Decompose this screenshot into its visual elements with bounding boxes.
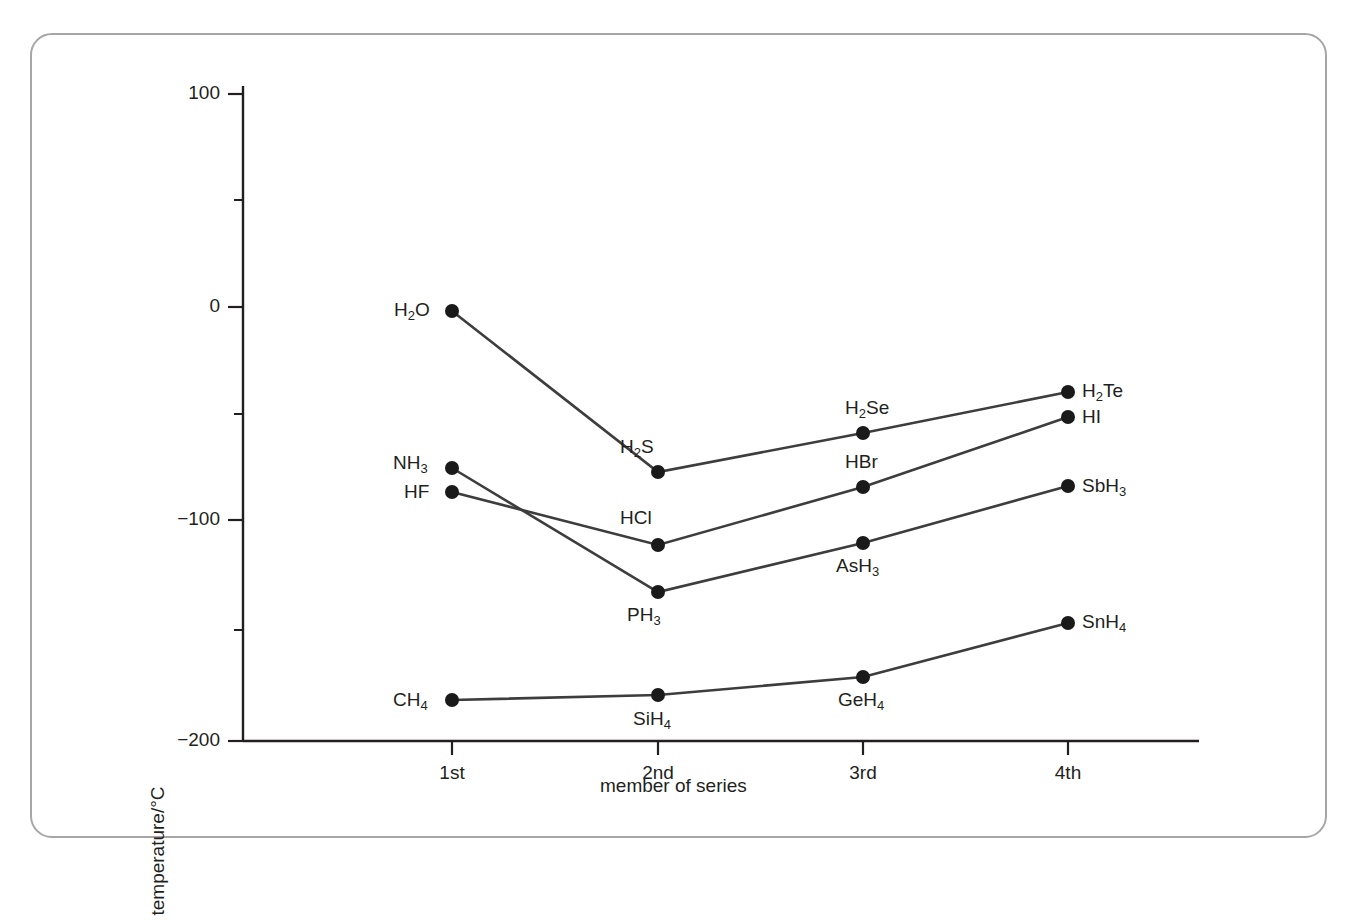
data-point-geh4[interactable] [856,670,870,684]
data-point-nh3[interactable] [445,461,459,475]
data-point-hbr[interactable] [856,480,870,494]
data-point-sbh3[interactable] [1061,479,1075,493]
data-point-ch4[interactable] [445,693,459,707]
point-label-h2se: H2Se [845,398,889,417]
point-label-sih4: SiH4 [633,709,671,728]
series-line-group14 [452,623,1068,700]
series-line-group15 [452,468,1068,592]
point-label-ph3: PH3 [627,605,661,624]
y-axis-title-wrapper: temperature/°C [95,400,325,424]
point-label-h2s: H2S [620,437,654,456]
data-point-hcl[interactable] [651,538,665,552]
x-tick-label-4th: 4th [1028,762,1108,784]
point-label-hcl: HCl [620,508,652,527]
x-axis-title: member of series [600,775,747,797]
data-point-ph3[interactable] [651,585,665,599]
data-point-h2s[interactable] [651,465,665,479]
y-tick-label-100: 100 [150,82,220,104]
point-label-snh4: SnH4 [1082,612,1126,631]
data-point-h2te[interactable] [1061,385,1075,399]
data-point-sih4[interactable] [651,688,665,702]
point-label-ash3: AsH3 [836,556,879,575]
x-tick-label-1st: 1st [412,762,492,784]
point-label-ch4: CH4 [393,690,428,709]
point-label-nh3: NH3 [393,453,428,472]
y-axis-title: temperature/°C [147,736,169,920]
data-point-h2se[interactable] [856,426,870,440]
point-label-h2te: H2Te [1082,381,1123,400]
point-label-sbh3: SbH3 [1082,476,1126,495]
y-tick-label-0: 0 [150,295,220,317]
point-label-hi: HI [1082,407,1101,426]
y-tick-label-minus-100: −100 [140,508,220,530]
data-point-snh4[interactable] [1061,616,1075,630]
point-label-hf: HF [404,482,429,501]
data-point-hi[interactable] [1061,410,1075,424]
data-point-ash3[interactable] [856,536,870,550]
data-point-h2o[interactable] [445,304,459,318]
x-tick-label-3rd: 3rd [823,762,903,784]
point-label-h2o: H2O [394,300,430,319]
series-line-group17 [452,417,1068,545]
data-point-hf[interactable] [445,485,459,499]
point-label-hbr: HBr [845,452,878,471]
point-label-geh4: GeH4 [838,690,884,709]
